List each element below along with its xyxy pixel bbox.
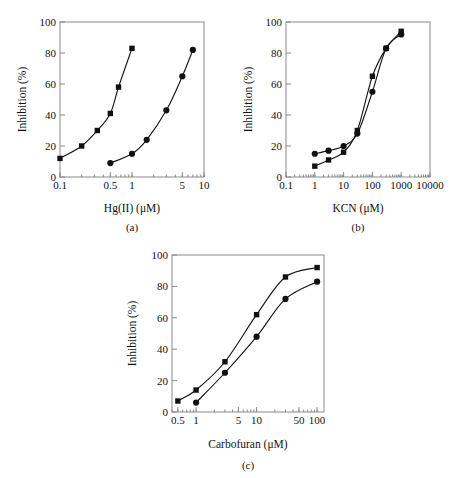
data-point-circle (325, 148, 331, 154)
y-tick-label: 60 (271, 78, 283, 90)
chart-svg-c: 0.5151050100020406080100Carbofuran (μM)I… (110, 235, 350, 478)
data-point-square (314, 265, 319, 270)
data-point-circle (107, 160, 113, 166)
data-point-square (341, 150, 346, 155)
x-tick-label: 1 (312, 179, 318, 191)
data-point-circle (253, 334, 259, 340)
x-tick-label: 5 (180, 179, 186, 191)
y-axis-title: Inhibition (%) (126, 301, 139, 367)
y-tick-label: 80 (157, 280, 169, 292)
data-point-square (108, 111, 113, 116)
data-point-square (79, 143, 84, 148)
y-tick-label: 0 (51, 171, 57, 183)
data-point-square (326, 157, 331, 162)
x-tick-label: 0.5 (171, 414, 185, 426)
x-axis-ticks: 0.1110100100010000 (279, 172, 444, 191)
y-tick-label: 40 (271, 109, 283, 121)
data-series-square (175, 265, 320, 404)
data-point-square (222, 359, 227, 364)
series-curve (315, 31, 401, 166)
data-point-square (129, 46, 134, 51)
data-point-circle (129, 151, 135, 157)
chart-svg-b: 0.1110100100010000020406080100KCN (μM)In… (228, 0, 456, 239)
data-point-circle (144, 137, 150, 143)
x-axis-title: Carbofuran (μM) (208, 438, 287, 451)
x-tick-label: 10 (338, 179, 350, 191)
data-point-circle (179, 73, 185, 79)
series-curve (110, 50, 193, 163)
y-tick-label: 20 (45, 140, 57, 152)
data-point-circle (341, 143, 347, 149)
y-tick-label: 60 (45, 78, 57, 90)
series-curve (178, 268, 317, 401)
series-curve (60, 48, 132, 158)
data-series-square (57, 46, 134, 161)
data-point-circle (314, 279, 320, 285)
y-axis-ticks: 020406080100 (266, 16, 292, 183)
y-tick-label: 80 (45, 47, 57, 59)
data-point-circle (398, 31, 404, 37)
x-axis-ticks: 0.5151050100 (171, 407, 326, 426)
data-point-square (116, 84, 121, 89)
x-tick-label: 10 (251, 414, 263, 426)
y-axis-title: Inhibition (%) (242, 67, 255, 133)
x-tick-label: 0.5 (103, 179, 117, 191)
x-tick-label: 10000 (416, 179, 444, 191)
data-point-square (57, 156, 62, 161)
data-point-square (283, 274, 288, 279)
data-point-circle (193, 399, 199, 405)
y-axis-ticks: 020406080100 (152, 249, 178, 418)
y-tick-label: 0 (163, 406, 169, 418)
data-series-square (312, 29, 404, 169)
y-tick-label: 20 (157, 375, 169, 387)
figure-three-panel-dose-response: 0.10.51510020406080100Hg(II) (μM)Inhibit… (0, 0, 456, 478)
y-tick-label: 80 (271, 47, 283, 59)
y-tick-label: 100 (40, 16, 57, 28)
data-series-circle (312, 31, 405, 157)
x-tick-label: 1000 (390, 179, 413, 191)
data-point-circle (282, 296, 288, 302)
panel-label: (c) (242, 459, 255, 472)
y-tick-label: 40 (45, 109, 57, 121)
y-tick-label: 0 (277, 171, 283, 183)
chart-panel-b: 0.1110100100010000020406080100KCN (μM)In… (228, 0, 456, 239)
y-tick-label: 100 (152, 249, 169, 261)
data-point-circle (163, 107, 169, 113)
x-axis-title: Hg(II) (μM) (104, 202, 160, 215)
data-point-square (370, 74, 375, 79)
chart-panel-a: 0.10.51510020406080100Hg(II) (μM)Inhibit… (0, 0, 228, 239)
data-point-circle (190, 47, 196, 53)
y-tick-label: 20 (271, 140, 283, 152)
chart-panel-c: 0.5151050100020406080100Carbofuran (μM)I… (110, 235, 350, 478)
x-tick-label: 100 (309, 414, 326, 426)
y-tick-label: 100 (266, 16, 283, 28)
data-point-circle (312, 151, 318, 157)
data-point-circle (383, 45, 389, 51)
x-axis-ticks: 0.10.51510 (53, 172, 210, 191)
chart-svg-a: 0.10.51510020406080100Hg(II) (μM)Inhibit… (0, 0, 228, 239)
x-tick-label: 1 (193, 414, 199, 426)
data-point-square (95, 128, 100, 133)
panel-label: (a) (126, 221, 139, 234)
data-point-circle (222, 370, 228, 376)
y-tick-label: 60 (157, 312, 169, 324)
series-curve (196, 282, 317, 403)
x-tick-label: 5 (236, 414, 242, 426)
plot-frame (286, 22, 430, 177)
x-axis-title: KCN (μM) (332, 202, 383, 215)
x-tick-label: 10 (199, 179, 211, 191)
panel-label: (b) (352, 221, 365, 234)
data-point-circle (354, 131, 360, 137)
data-point-square (175, 398, 180, 403)
y-axis-title: Inhibition (%) (16, 67, 29, 133)
x-tick-label: 1 (129, 179, 135, 191)
data-point-square (193, 387, 198, 392)
x-tick-label: 100 (364, 179, 381, 191)
data-point-circle (369, 89, 375, 95)
data-point-square (312, 163, 317, 168)
data-series-circle (107, 47, 196, 166)
data-series-circle (193, 279, 320, 406)
y-tick-label: 40 (157, 343, 169, 355)
data-point-square (254, 312, 259, 317)
x-tick-label: 50 (293, 414, 305, 426)
